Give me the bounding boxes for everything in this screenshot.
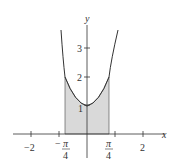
x-tick-label-2: 2 (140, 142, 145, 153)
x-tick-label-pi: π (106, 138, 112, 149)
x-tick-label-neg-4: 4 (63, 150, 68, 161)
y-tick-label-1: 1 (78, 103, 83, 114)
x-tick-label-neg2: −2 (24, 142, 35, 153)
x-tick-label-neg-pi: π (63, 138, 69, 149)
y-axis-label: y (84, 13, 90, 24)
y-tick-label-3: 3 (77, 43, 82, 54)
y-tick-label-2: 2 (77, 72, 82, 83)
chart-canvas: x y −2 2 − π 4 π 4 1 2 3 (0, 0, 181, 165)
x-tick-label-4: 4 (106, 150, 111, 161)
x-axis-label: x (161, 129, 167, 140)
x-tick-label-minus: − (55, 138, 61, 149)
